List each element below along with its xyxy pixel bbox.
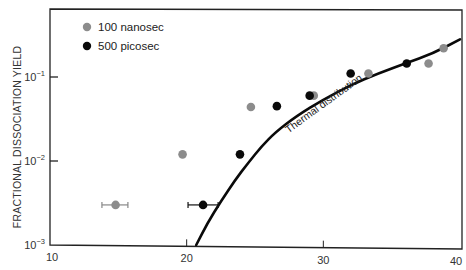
x-tick-label: 30 xyxy=(317,254,329,266)
legend-label-500-picosec: 500 picosec xyxy=(98,40,160,52)
legend-marker-100-nanosec xyxy=(83,23,91,31)
series-500-picosec xyxy=(188,59,411,209)
x-axis-ticks: 10203040 xyxy=(46,239,462,267)
y-tick-label: 10−3 xyxy=(24,237,45,251)
legend: 100 nanosec 500 picosec xyxy=(83,21,164,52)
data-point xyxy=(236,150,245,159)
y-tick-label: 10−1 xyxy=(24,69,45,83)
y-axis-title: FRACTIONAL DISSOCIATION YIELD xyxy=(11,46,23,229)
x-tick-label: 10 xyxy=(46,251,58,263)
data-point xyxy=(273,102,282,111)
data-point xyxy=(346,69,355,78)
series-100-nanosec xyxy=(102,44,448,209)
thermal-distribution-curve xyxy=(196,39,460,245)
legend-marker-500-picosec xyxy=(83,42,91,50)
x-tick-label: 40 xyxy=(450,255,462,267)
data-point xyxy=(178,150,187,159)
data-point xyxy=(402,59,411,68)
x-tick-label: 20 xyxy=(181,252,193,264)
data-point xyxy=(111,201,120,210)
data-point xyxy=(199,201,208,210)
data-point xyxy=(439,44,448,53)
data-point xyxy=(364,69,373,78)
data-series xyxy=(102,44,448,209)
data-point xyxy=(424,59,433,68)
legend-label-100-nanosec: 100 nanosec xyxy=(98,21,164,33)
dissociation-yield-chart: 10203040 10−310−210−1 FRACTIONAL DISSOCI… xyxy=(0,0,466,270)
data-point xyxy=(247,103,256,112)
curve-path xyxy=(196,39,460,245)
data-point xyxy=(305,91,314,100)
y-tick-label: 10−2 xyxy=(24,153,45,167)
curve-label: Thermal distribution xyxy=(283,71,365,135)
y-axis-ticks: 10−310−210−1 xyxy=(24,69,58,251)
